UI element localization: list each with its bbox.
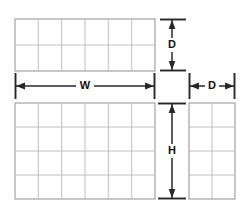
dimension-depth-top: D [160,20,186,71]
depth-side-arrow-right [225,83,234,90]
width-arrow-left [16,83,25,90]
height-arrow-down [169,189,176,198]
dimension-height: H [158,104,186,199]
width-arrow-right [145,83,154,90]
depth-top-arrow-up [169,20,176,29]
dimension-diagram: D W D [0,0,249,217]
depth-top-arrow-down [169,61,176,70]
diagram-canvas: D W D [0,0,249,217]
dimension-width: W [16,73,155,99]
dimension-label-height: H [168,144,176,156]
dimension-label-depth-top: D [168,38,176,50]
depth-side-arrow-left [190,83,199,90]
dimension-label-width: W [80,79,91,91]
front-view-grid [15,103,155,199]
height-arrow-up [169,104,176,113]
dimension-depth-side: D [190,73,235,99]
dimension-label-depth-side: D [208,79,216,91]
side-view-grid [189,103,235,199]
top-view-grid [15,19,155,71]
